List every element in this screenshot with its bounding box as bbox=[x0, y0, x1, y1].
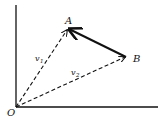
vector-diagram: A B O v 1 v 2 bbox=[0, 0, 161, 125]
point-label-o: O bbox=[7, 107, 15, 118]
vector-label-v2: v 2 bbox=[71, 68, 80, 78]
point-label-a: A bbox=[64, 15, 72, 26]
point-label-b: B bbox=[132, 53, 140, 64]
vector-label-v1: v 1 bbox=[35, 54, 44, 64]
svg-text:2: 2 bbox=[75, 72, 80, 78]
vector-b-to-a bbox=[69, 29, 126, 57]
svg-text:1: 1 bbox=[40, 58, 44, 64]
